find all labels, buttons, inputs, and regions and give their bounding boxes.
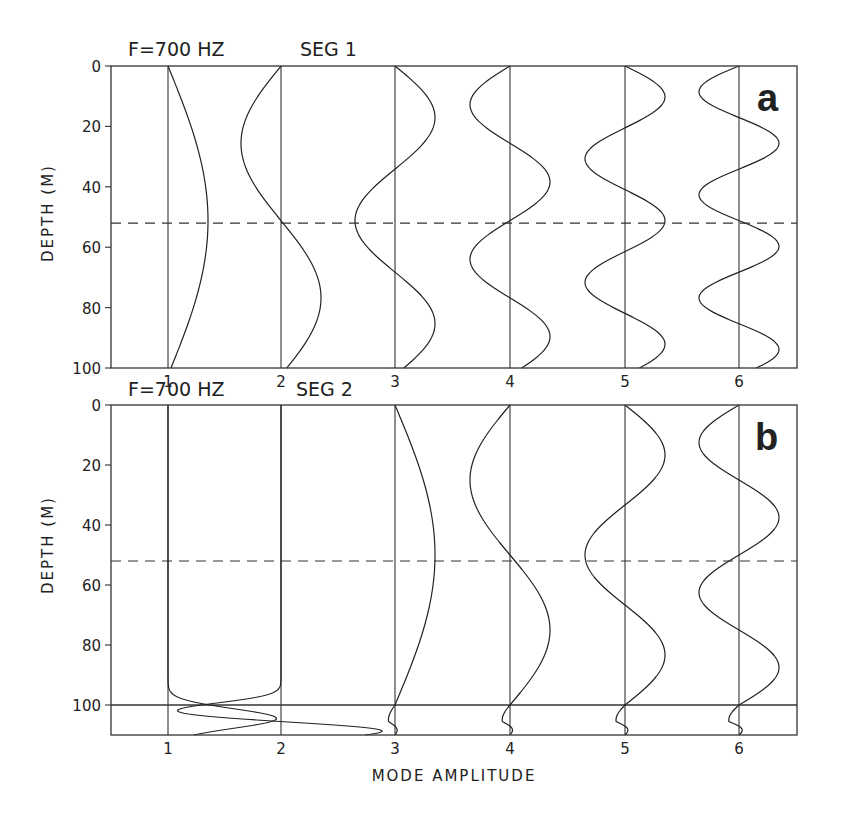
y-tick-label: 0 [91,58,101,76]
x-tick-label: 6 [734,740,744,758]
y-tick-label: 20 [82,118,101,136]
panel-a-y-ticks: 020406080100 [72,58,111,378]
y-tick-label: 80 [82,637,101,655]
panel-a-x-ticks: 123456 [163,373,744,391]
y-tick-label: 60 [82,239,101,257]
y-tick-label: 100 [72,360,101,378]
panel-a-mode-curves [168,66,779,368]
panel-b-mode-1-curve [168,405,276,735]
x-tick-label: 2 [276,373,286,391]
x-tick-label: 4 [505,740,515,758]
y-tick-label: 100 [72,697,101,715]
y-tick-label: 40 [82,179,101,197]
panel-b-frequency-title: F=700 HZ [128,378,224,400]
x-tick-label: 3 [390,740,400,758]
panel-b-mode-curves [168,405,779,735]
x-tick-label: 3 [390,373,400,391]
panel-a-segment-title: SEG 1 [300,38,357,60]
panel-b-mode-2-curve [178,405,382,735]
x-axis-title: MODE AMPLITUDE [372,767,537,785]
panel-b: F=700 HZ SEG 2 DEPTH (M) 020406080100 12… [39,378,797,785]
panel-b-mode-baselines [168,405,739,735]
x-tick-label: 4 [505,373,515,391]
x-tick-label: 2 [276,740,286,758]
x-tick-label: 5 [620,373,630,391]
panel-a: F=700 HZ SEG 1 DEPTH (M) 020406080100 12… [39,38,797,391]
panel-a-mode-baselines [168,66,739,368]
panel-b-y-axis-title: DEPTH (M) [39,496,57,594]
y-tick-label: 20 [82,457,101,475]
panel-b-letter: b [755,416,778,458]
panel-a-mode-1-curve [168,66,208,368]
y-tick-label: 60 [82,577,101,595]
y-tick-label: 40 [82,517,101,535]
panel-b-y-ticks: 020406080100 [72,397,111,715]
y-tick-label: 80 [82,300,101,318]
y-tick-label: 0 [91,397,101,415]
panel-b-segment-title: SEG 2 [296,378,353,400]
x-tick-label: 6 [734,373,744,391]
panel-a-y-axis-title: DEPTH (M) [39,164,57,262]
panel-a-frequency-title: F=700 HZ [128,38,224,60]
mode-amplitude-figure: F=700 HZ SEG 1 DEPTH (M) 020406080100 12… [0,0,843,813]
panel-a-frame [111,66,797,368]
x-tick-label: 1 [163,740,173,758]
panel-b-x-ticks: 123456 [163,740,744,758]
panel-a-letter: a [757,77,779,119]
panel-b-frame [111,405,797,735]
x-tick-label: 5 [620,740,630,758]
